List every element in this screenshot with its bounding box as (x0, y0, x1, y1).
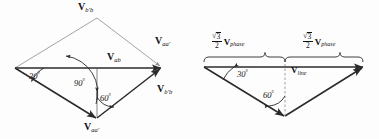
angle-90-label: 90° (74, 78, 85, 88)
label-vbb-right: Vb′b (157, 84, 172, 95)
label-vaa-right: Vaa′ (155, 36, 170, 47)
phasor-diagram-labelled: Vb′b Vaa′ Vab Vb′b Vaa′ 30° 90° 60° (0, 0, 190, 139)
vector-vaa-lower (15, 68, 96, 118)
label-vbb-top: Vb′b (78, 2, 93, 13)
left-vector-graphic (0, 0, 190, 139)
label-vab: Vab (107, 52, 121, 63)
label-sqrt3-over-2-vphase-right: 3 2 Vphase (303, 32, 335, 50)
right-vector-graphic (190, 0, 379, 139)
label-vaa-bottom: Vaa′ (84, 122, 99, 133)
angle-30-label: 30° (237, 69, 248, 79)
figure-canvas: Vb′b Vaa′ Vab Vb′b Vaa′ 30° 90° 60° (0, 0, 379, 139)
fraction-sqrt3-over-2: 3 2 (303, 32, 313, 50)
label-sqrt3-over-2-vphase-left: 3 2 Vphase (212, 32, 244, 50)
angle-60-label: 60° (263, 90, 274, 100)
angle-60-label: 60° (100, 93, 111, 103)
construction-line-left-to-apex (15, 18, 97, 68)
brace-right (285, 53, 363, 63)
label-vline: Vline (291, 66, 307, 76)
arc-30-degrees (223, 67, 234, 80)
brace-left (204, 53, 285, 63)
fraction-sqrt3-over-2: 3 2 (212, 32, 222, 50)
phasor-diagram-magnitudes: 3 2 Vphase 3 2 Vphase Vline 30° 60° (190, 0, 379, 139)
angle-30-label: 30° (29, 71, 40, 81)
